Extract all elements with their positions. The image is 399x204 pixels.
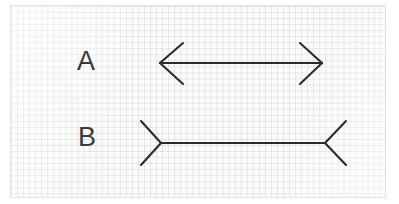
muller-lyer-drawing	[0, 0, 399, 204]
figure-b-fin-left-top	[141, 121, 161, 143]
figure-b-fin-left-bottom	[141, 143, 161, 165]
figure-b	[141, 121, 346, 165]
figure-a-fin-right-bottom	[300, 63, 322, 84]
figure-b-label: B	[78, 124, 96, 151]
figure-a	[160, 43, 322, 84]
image-canvas: A B	[0, 0, 399, 204]
figure-a-fin-left-top	[160, 43, 183, 63]
figure-a-fin-right-top	[300, 43, 322, 63]
figure-b-fin-right-top	[325, 121, 346, 143]
figure-a-label: A	[77, 48, 95, 75]
figure-b-fin-right-bottom	[325, 143, 346, 165]
figure-a-fin-left-bottom	[160, 63, 183, 84]
